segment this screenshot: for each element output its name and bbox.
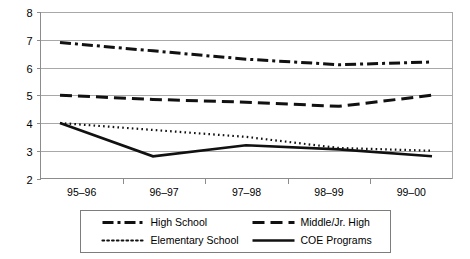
- x-axis-labels-group: 95–9696–9797–9898–9999–00: [67, 186, 426, 198]
- line-chart: 2345678 95–9696–9797–9898–9999–00 High S…: [0, 0, 470, 259]
- y-axis-tick-label: 5: [26, 90, 32, 102]
- y-axis-tick-label: 2: [26, 174, 32, 186]
- legend: High SchoolMiddle/Jr. HighElementary Sch…: [81, 211, 391, 253]
- y-axis-tick-label: 7: [26, 35, 32, 47]
- y-axis-tick-label: 4: [26, 118, 32, 130]
- y-axis-labels-group: 2345678: [26, 7, 32, 186]
- x-axis-tick-label: 97–98: [232, 186, 261, 198]
- chart-canvas: 2345678 95–9696–9797–9898–9999–00 High S…: [0, 0, 470, 259]
- x-axis-tick-label: 98–99: [314, 186, 343, 198]
- y-axis-tick-label: 6: [26, 63, 32, 75]
- y-axis-tick-label: 3: [26, 146, 32, 158]
- legend-label-2: Elementary School: [151, 234, 239, 246]
- gridlines-group: [41, 13, 453, 152]
- legend-label-3: COE Programs: [301, 234, 372, 246]
- x-axis-tick-label: 99–00: [397, 186, 426, 198]
- y-axis-tick-label: 8: [26, 7, 32, 19]
- series-line-2: [60, 123, 432, 151]
- x-tickmarks-group: [124, 179, 371, 184]
- x-axis-tick-label: 96–97: [149, 186, 178, 198]
- series-line-1: [60, 95, 432, 106]
- series-line-0: [60, 43, 432, 65]
- legend-label-0: High School: [151, 216, 208, 228]
- series-lines-group: [60, 43, 432, 157]
- legend-label-1: Middle/Jr. High: [301, 216, 371, 228]
- x-axis-tick-label: 95–96: [67, 186, 96, 198]
